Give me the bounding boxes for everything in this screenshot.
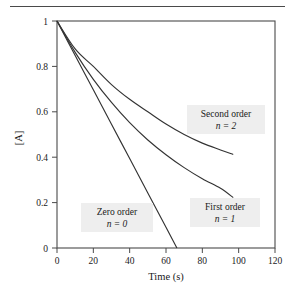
annotation-line2: n = 1 — [215, 214, 236, 224]
annotation-line1: First order — [205, 202, 246, 212]
x-axis-title: Time (s) — [148, 271, 184, 283]
x-axis-ticks — [57, 248, 275, 253]
annotation-line1: Second order — [201, 109, 252, 119]
annotation-line2: n = 0 — [107, 219, 128, 229]
x-tick-labels: 0 20 40 60 80 100 120 — [55, 256, 283, 266]
annotation-first-order: First order n = 1 — [190, 198, 260, 227]
y-tick-label: 1 — [43, 17, 48, 27]
y-tick-label: 0.8 — [36, 62, 48, 72]
annotation-zero-order: Zero order n = 0 — [81, 203, 153, 232]
x-tick-label: 100 — [232, 256, 247, 266]
kinetics-figure: 0 20 40 60 80 100 120 0 0.2 0.4 0.6 0.8 … — [0, 0, 295, 297]
x-tick-label: 40 — [125, 256, 135, 266]
x-tick-label: 120 — [268, 256, 283, 266]
y-tick-label: 0.4 — [36, 153, 48, 163]
y-tick-label: 0.2 — [36, 198, 48, 208]
x-tick-label: 60 — [161, 256, 171, 266]
y-axis-title: [A] — [13, 131, 24, 146]
concentration-vs-time-plot: 0 20 40 60 80 100 120 0 0.2 0.4 0.6 0.8 … — [0, 0, 295, 297]
curve-second-order — [57, 21, 233, 154]
x-tick-label: 20 — [89, 256, 99, 266]
annotation-line1: Zero order — [97, 207, 138, 217]
x-tick-label: 0 — [55, 256, 60, 266]
y-axis-ticks — [52, 21, 57, 248]
y-tick-labels: 0 0.2 0.4 0.6 0.8 1 — [36, 17, 48, 254]
annotation-line2: n = 2 — [216, 121, 237, 131]
y-tick-label: 0.6 — [36, 107, 48, 117]
x-tick-label: 80 — [198, 256, 208, 266]
y-tick-label: 0 — [43, 244, 48, 254]
annotation-second-order: Second order n = 2 — [187, 105, 265, 134]
